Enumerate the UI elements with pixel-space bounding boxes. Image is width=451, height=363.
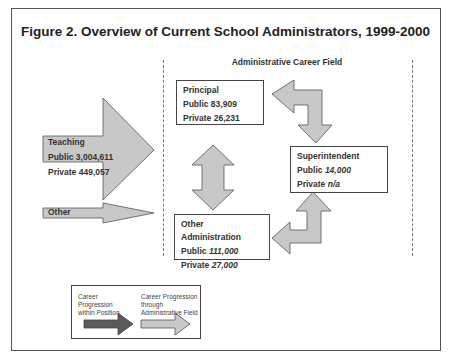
principal-otheradmin-arrow — [192, 145, 234, 210]
teaching-label: Teaching Public 3,004,611 Private 449,05… — [48, 136, 113, 179]
legend-within-position: Career Progression within Position — [78, 293, 130, 317]
superintendent-box: Superintendent Public 14,000 Private n/a — [290, 146, 388, 193]
superintendent-otheradmin-arrow — [272, 192, 331, 254]
principal-box: Principal Public 83,909 Private 26,231 — [176, 80, 264, 125]
legend-through-field: Career Progression through Administrativ… — [141, 293, 201, 317]
other-administration-box: Other Administration Public 111,000 Priv… — [174, 214, 270, 260]
principal-superintendent-arrow — [272, 80, 332, 143]
other-label: Other — [48, 206, 71, 219]
